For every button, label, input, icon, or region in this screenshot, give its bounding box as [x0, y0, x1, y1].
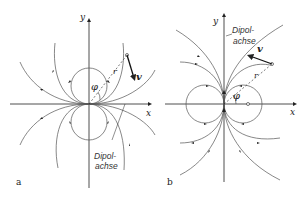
x-axis-label-a: x: [146, 108, 151, 118]
radius-line-a: [89, 55, 127, 104]
angle-arc-a: [98, 92, 100, 100]
dipole-axis-label-b-2: achse: [233, 36, 256, 46]
x-axis-label-b: x: [290, 107, 295, 117]
velocity-vector-b: [250, 56, 272, 64]
radius-line-b: [224, 64, 272, 104]
velocity-vector-a: [127, 55, 134, 78]
panel-label-b: b: [167, 177, 173, 187]
radius-label-a: r: [113, 67, 118, 76]
panel-label-a: a: [16, 177, 22, 187]
dipole-field-figure: y x φ r v Dipol- achse a: [0, 0, 307, 200]
vector-label-a: v: [136, 71, 142, 82]
angle-label-b: φ: [233, 90, 240, 101]
dipole-axis-pointer-a: [112, 104, 125, 140]
y-axis-label-a: y: [79, 12, 86, 22]
angle-label-a: φ: [91, 81, 98, 92]
panel-b: y x φ r v Dipol- achse b: [165, 15, 295, 187]
panel-a: y x φ r v Dipol- achse a: [10, 12, 155, 188]
y-axis-label-b: y: [212, 16, 219, 26]
dipole-axis-label-a-2: achse: [95, 161, 118, 171]
field-lines-b: [176, 25, 283, 180]
angle-point-b: [247, 103, 250, 106]
field-lines-a: [20, 43, 155, 170]
dipole-axis-label-a-1: Dipol-: [94, 151, 116, 161]
vector-label-b: v: [257, 43, 263, 54]
dipole-axis-label-b-1: Dipol-: [232, 25, 254, 35]
